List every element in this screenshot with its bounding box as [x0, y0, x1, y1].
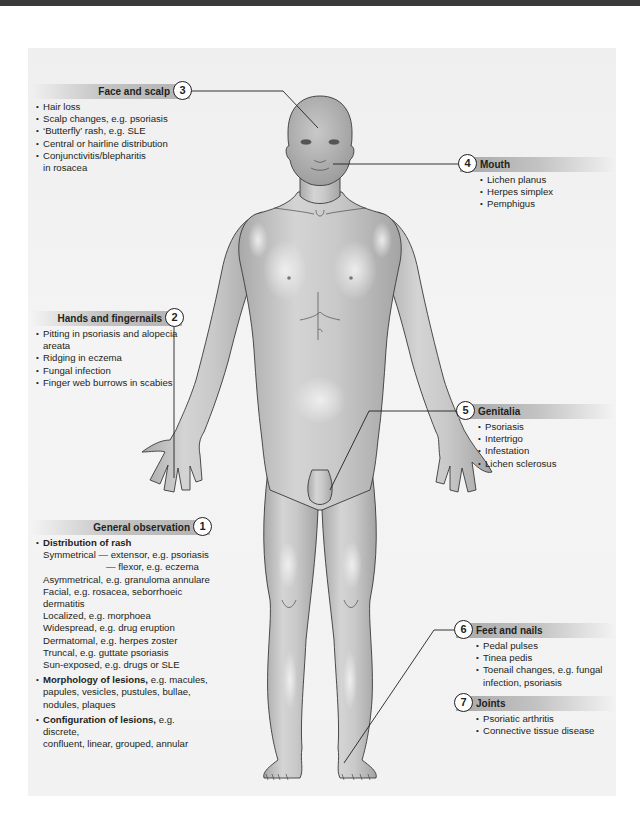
- callout-header: 5 Genitalia: [458, 404, 615, 419]
- list-item-continuation: areata: [36, 340, 182, 352]
- distribution-line: Symmetrical — extensor, e.g. psoriasis: [43, 549, 210, 561]
- list-item: Ridging in eczema: [36, 352, 182, 364]
- list-item: Pitting in psoriasis and alopecia: [36, 328, 182, 340]
- callout-title: General observation: [93, 522, 190, 533]
- configuration-heading: Configuration of lesions,: [43, 714, 156, 725]
- list-item: ‘Butterfly’ rash, e.g. SLE: [36, 125, 190, 137]
- morphology-text: papules, vesicles, pustules, bullae,: [43, 686, 210, 698]
- list-item: Intertrigo: [478, 433, 615, 445]
- callout-general-observation: General observation 1 Distribution of ra…: [32, 520, 210, 750]
- callout-header: 4 Mouth: [460, 157, 615, 172]
- list-item: Pemphigus: [480, 198, 615, 210]
- callout-title: Hands and fingernails: [58, 313, 162, 324]
- distribution-line: dermatitis: [43, 598, 210, 610]
- list-item: Toenail changes, e.g. fungal: [476, 664, 615, 676]
- list-item: Scalp changes, e.g. psoriasis: [36, 113, 190, 125]
- callout-title: Face and scalp: [98, 86, 170, 97]
- morphology-of-lesions: Morphology of lesions, e.g. macules, pap…: [36, 674, 210, 711]
- callout-header: Hands and fingernails 2: [32, 311, 182, 326]
- callout-title: Mouth: [480, 159, 510, 170]
- distribution-line: Widespread, e.g. drug eruption: [43, 622, 210, 634]
- list-item: Tinea pedis: [476, 652, 615, 664]
- list-item: Psoriasis: [478, 421, 615, 433]
- callout-joints: 7 Joints Psoriatic arthritis Connective …: [456, 696, 615, 737]
- distribution-line: Truncal, e.g. guttate psoriasis: [43, 647, 210, 659]
- callout-title: Joints: [476, 698, 505, 709]
- list-item: Central or hairline distribution: [36, 138, 190, 150]
- distribution-of-rash: Distribution of rash Symmetrical — exten…: [36, 537, 210, 671]
- callout-genitalia: 5 Genitalia Psoriasis Intertrigo Infesta…: [458, 404, 615, 470]
- list-item: Hair loss: [36, 101, 190, 113]
- number-badge: 1: [193, 517, 212, 536]
- number-badge: 7: [454, 693, 473, 712]
- callout-face-and-scalp: Face and scalp 3 Hair loss Scalp changes…: [32, 84, 190, 174]
- callout-feet-and-nails: 6 Feet and nails Pedal pulses Tinea pedi…: [456, 623, 615, 689]
- distribution-line: — flexor, e.g. eczema: [43, 561, 210, 573]
- morphology-text: e.g. macules,: [148, 674, 208, 685]
- list-item: Herpes simplex: [480, 186, 615, 198]
- callout-title: Feet and nails: [476, 625, 543, 636]
- callout-hands-and-fingernails: Hands and fingernails 2 Pitting in psori…: [32, 311, 182, 389]
- list-item: Finger web burrows in scabies: [36, 377, 182, 389]
- number-badge: 6: [454, 620, 473, 639]
- list-item-continuation: in rosacea: [36, 162, 190, 174]
- list-item: Psoriatic arthritis: [476, 713, 615, 725]
- distribution-line: Facial, e.g. rosacea, seborrhoeic: [43, 586, 210, 598]
- configuration-of-lesions: Configuration of lesions, e.g. discrete,…: [36, 714, 210, 751]
- number-badge: 5: [456, 401, 475, 420]
- list-item: Lichen planus: [480, 174, 615, 186]
- list-item: Conjunctivitis/blepharitis: [36, 150, 190, 162]
- list-item: Pedal pulses: [476, 640, 615, 652]
- list-item-continuation: infection, psoriasis: [476, 677, 615, 689]
- left-leg: [322, 470, 376, 778]
- callout-header: General observation 1: [32, 520, 210, 535]
- distribution-line: Asymmetrical, e.g. granuloma annulare: [43, 574, 210, 586]
- distribution-heading: Distribution of rash: [43, 537, 131, 548]
- list-item: Fungal infection: [36, 365, 182, 377]
- callout-header: Face and scalp 3: [32, 84, 190, 99]
- configuration-text: confluent, linear, grouped, annular: [43, 738, 210, 750]
- distribution-line: Localized, e.g. morphoea: [43, 610, 210, 622]
- number-badge: 4: [458, 154, 477, 173]
- list-item: Connective tissue disease: [476, 725, 615, 737]
- list-item: Infestation: [478, 445, 615, 457]
- distribution-line: Dermatomal, e.g. herpes zoster: [43, 635, 210, 647]
- list-item: Lichen sclerosus: [478, 458, 615, 470]
- callout-header: 6 Feet and nails: [456, 623, 615, 638]
- head: [286, 96, 354, 186]
- number-badge: 3: [173, 81, 192, 100]
- morphology-text: nodules, plaques: [43, 699, 210, 711]
- callout-title: Genitalia: [478, 406, 520, 417]
- number-badge: 2: [165, 308, 184, 327]
- distribution-line: Sun-exposed, e.g. drugs or SLE: [43, 659, 210, 671]
- right-leg: [264, 470, 318, 778]
- callout-mouth: 4 Mouth Lichen planus Herpes simplex Pem…: [460, 157, 615, 211]
- genitals: [308, 470, 332, 505]
- callout-header: 7 Joints: [456, 696, 615, 711]
- morphology-heading: Morphology of lesions,: [43, 674, 148, 685]
